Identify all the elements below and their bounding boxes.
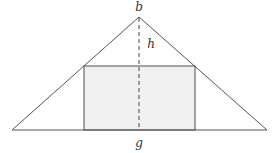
triangle-rectangle-diagram: b h g [0, 0, 275, 153]
height-label: h [147, 37, 155, 51]
apex-label: b [135, 0, 143, 14]
base-midpoint-label: g [135, 136, 143, 150]
